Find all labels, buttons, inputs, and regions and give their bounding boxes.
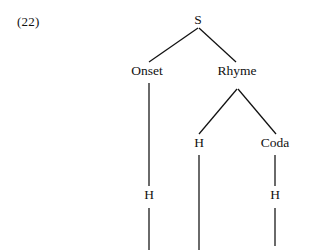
tree-edge-root-rhyme bbox=[199, 28, 236, 62]
node-rhyme: Rhyme bbox=[218, 64, 257, 78]
node-coda: Coda bbox=[261, 136, 290, 150]
syllable-tree-figure: (22) S Onset Rhyme H Coda H H bbox=[0, 0, 313, 250]
node-syllable: S bbox=[194, 13, 202, 27]
node-onset-segment-h: H bbox=[144, 188, 154, 202]
tree-edge-rhyme-coda bbox=[238, 89, 276, 134]
tree-edge-root-onset bbox=[149, 28, 198, 62]
node-nucleus-h: H bbox=[194, 136, 204, 150]
tree-edge-rhyme-nucleus bbox=[199, 89, 237, 134]
node-coda-segment-h: H bbox=[270, 188, 280, 202]
tree-branch-lines bbox=[0, 0, 313, 250]
node-onset: Onset bbox=[131, 64, 163, 78]
